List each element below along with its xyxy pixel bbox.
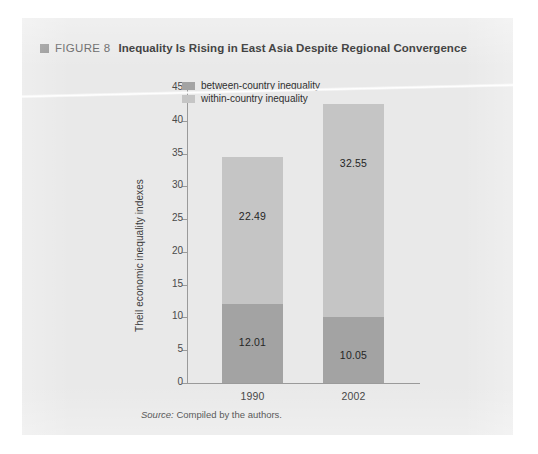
y-tick-label-30: 30	[172, 179, 183, 190]
y-tick-label-10: 10	[172, 310, 183, 321]
figure-title: Inequality Is Rising in East Asia Despit…	[118, 42, 466, 54]
figure-number: FIGURE 8	[55, 42, 110, 54]
bar-segment-between-country-1990[interactable]: 12.01	[222, 304, 283, 383]
legend-swatch-within-country	[182, 95, 195, 103]
y-tick-label-5: 5	[177, 343, 183, 354]
legend-label-within-country: within-country inequality	[201, 93, 308, 104]
bar-segment-between-country-2002[interactable]: 10.05	[323, 317, 384, 383]
bar-value-label-within-1990: 22.49	[239, 210, 266, 222]
x-tick-label-1990: 1990	[222, 390, 283, 402]
y-axis-line	[187, 88, 188, 383]
bar-value-label-between-2002: 10.05	[340, 349, 367, 361]
bar-group-1990[interactable]: 22.49 12.01	[222, 157, 283, 383]
bar-value-label-within-2002: 32.55	[340, 157, 367, 169]
source-note: Source: Compiled by the authors.	[141, 409, 282, 420]
legend-label-between-country: between-country inequality	[201, 80, 320, 91]
x-tick-label-2002: 2002	[323, 390, 384, 402]
bar-value-label-between-1990: 12.01	[239, 336, 266, 348]
legend-item-within-country[interactable]: within-country inequality	[182, 92, 320, 105]
y-axis-title-text: Theil economic inequality indexes	[134, 179, 145, 332]
y-tick-label-35: 35	[172, 147, 183, 158]
figure-page-panel: FIGURE 8 Inequality Is Rising in East As…	[22, 18, 513, 435]
legend-swatch-between-country	[182, 82, 195, 90]
x-axis-line	[187, 383, 420, 384]
y-tick-label-15: 15	[172, 278, 183, 289]
legend-item-between-country[interactable]: between-country inequality	[182, 79, 320, 92]
source-text: Compiled by the authors.	[174, 409, 282, 420]
bar-segment-within-country-1990[interactable]: 22.49	[222, 157, 283, 304]
source-label: Source:	[141, 409, 174, 420]
figure-title-row: FIGURE 8 Inequality Is Rising in East As…	[40, 42, 467, 54]
y-axis-title: Theil economic inequality indexes	[131, 140, 147, 370]
figure-root: FIGURE 8 Inequality Is Rising in East As…	[0, 0, 538, 454]
bar-group-2002[interactable]: 32.55 10.05	[323, 104, 384, 383]
y-tick-label-25: 25	[172, 212, 183, 223]
chart-legend: between-country inequality within-countr…	[182, 79, 320, 105]
y-tick-label-20: 20	[172, 245, 183, 256]
plot-area: 0 5 10 15 20 25	[187, 88, 420, 383]
bar-segment-within-country-2002[interactable]: 32.55	[323, 104, 384, 317]
square-bullet-icon	[40, 44, 49, 53]
y-tick-label-40: 40	[172, 114, 183, 125]
y-tick-label-0: 0	[177, 376, 183, 387]
